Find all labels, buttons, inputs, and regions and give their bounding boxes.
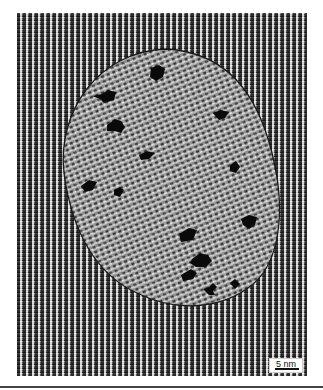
- bottom-divider: [0, 386, 323, 388]
- scale-bar-line: [275, 368, 299, 370]
- particle-outline: [63, 49, 279, 306]
- particle-overlay: [17, 13, 307, 376]
- scale-bar: 5 nm: [269, 358, 303, 373]
- micrograph-panel: 5 nm: [17, 13, 307, 376]
